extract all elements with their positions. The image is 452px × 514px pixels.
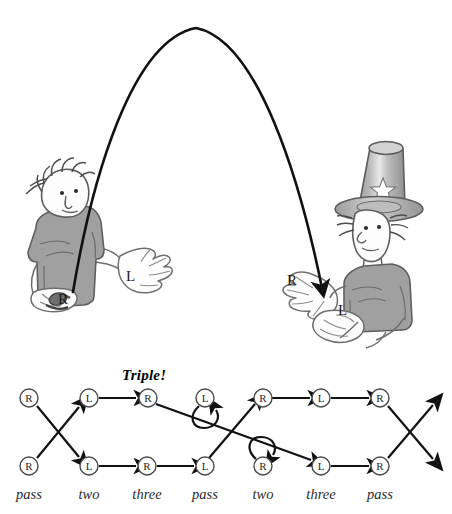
node-b2: R (138, 457, 156, 475)
node-b1: L (80, 457, 98, 475)
node-t3: L (196, 389, 214, 407)
edge-b4-self-loop (250, 437, 275, 459)
node-b4-label: R (259, 460, 267, 472)
node-b4: R (254, 457, 272, 475)
diagram-edges (37, 398, 433, 466)
node-b6-label: R (376, 460, 384, 472)
node-b2-label: R (143, 460, 151, 472)
causal-diagram: R L R L R L R (0, 0, 452, 514)
triple-annotation: Triple! (122, 367, 166, 384)
node-b5: L (312, 457, 330, 475)
node-b5-label: L (318, 460, 325, 472)
edge-t3-self-loop (193, 406, 218, 428)
node-t2: R (139, 389, 157, 407)
node-t5: L (312, 389, 330, 407)
beat-label-6: pass (345, 486, 415, 503)
node-b0: R (20, 457, 38, 475)
node-t0-label: R (25, 392, 33, 404)
node-t4-label: R (259, 392, 267, 404)
node-b1-label: L (86, 460, 93, 472)
node-t5-label: L (318, 392, 325, 404)
node-t1-label: L (86, 392, 93, 404)
node-t6: R (371, 389, 389, 407)
node-b6: R (371, 457, 389, 475)
node-b3: L (196, 457, 214, 475)
figure-page: R L R L (0, 0, 452, 514)
node-t1: L (80, 389, 98, 407)
node-t0: R (20, 389, 38, 407)
node-t6-label: R (376, 392, 384, 404)
diagram-nodes: R L R L R L R (20, 389, 389, 475)
node-t4: R (254, 389, 272, 407)
node-b0-label: R (25, 460, 33, 472)
node-t3-label: L (202, 392, 209, 404)
edge-t2-b5-triple (156, 404, 311, 460)
node-b3-label: L (202, 460, 209, 472)
node-t2-label: R (144, 392, 152, 404)
